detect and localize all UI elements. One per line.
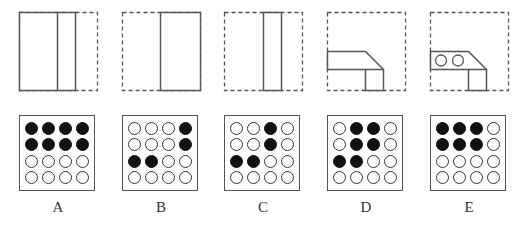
filled-dot-icon [59, 138, 72, 151]
empty-dot-icon [25, 155, 38, 168]
empty-dot-icon [162, 138, 175, 151]
empty-dot-icon [487, 122, 500, 135]
empty-dot-icon [367, 171, 380, 184]
filled-dot-icon [25, 138, 38, 151]
filled-dot-icon [367, 122, 380, 135]
empty-dot-icon [384, 171, 397, 184]
empty-dot-icon [128, 138, 141, 151]
dot-grid-d [327, 115, 403, 191]
empty-dot-icon [453, 155, 466, 168]
empty-dot-icon [247, 138, 260, 151]
empty-dot-icon [76, 171, 89, 184]
empty-dot-icon [281, 122, 294, 135]
filled-dot-icon [264, 138, 277, 151]
empty-dot-icon [162, 122, 175, 135]
option-a: A [0, 0, 100, 227]
empty-dot-icon [384, 155, 397, 168]
option-label-a: A [19, 199, 97, 216]
filled-dot-icon [42, 122, 55, 135]
filled-dot-icon [470, 122, 483, 135]
empty-dot-icon [264, 171, 277, 184]
filled-dot-icon [25, 122, 38, 135]
filled-dot-icon [179, 138, 192, 151]
empty-dot-icon [128, 122, 141, 135]
option-d: D [308, 0, 408, 227]
empty-dot-icon [470, 171, 483, 184]
top-shape-a [0, 0, 110, 100]
filled-dot-icon [179, 122, 192, 135]
filled-dot-icon [128, 155, 141, 168]
empty-dot-icon [145, 122, 158, 135]
empty-dot-icon [487, 155, 500, 168]
dot-grid-e [430, 115, 506, 191]
filled-dot-icon [333, 155, 346, 168]
filled-dot-icon [470, 138, 483, 151]
empty-dot-icon [436, 171, 449, 184]
top-shape-c [205, 0, 315, 100]
empty-dot-icon [350, 171, 363, 184]
filled-dot-icon [453, 122, 466, 135]
filled-dot-icon [230, 155, 243, 168]
filled-dot-icon [350, 138, 363, 151]
empty-dot-icon [487, 138, 500, 151]
top-shape-b [103, 0, 213, 100]
empty-dot-icon [128, 171, 141, 184]
empty-dot-icon [281, 155, 294, 168]
filled-dot-icon [436, 138, 449, 151]
option-b: B [103, 0, 203, 227]
empty-dot-icon [59, 171, 72, 184]
empty-dot-icon [42, 155, 55, 168]
empty-dot-icon [384, 122, 397, 135]
option-c: C [205, 0, 305, 227]
empty-dot-icon [25, 171, 38, 184]
empty-dot-icon [179, 155, 192, 168]
empty-dot-icon [470, 155, 483, 168]
empty-dot-icon [247, 171, 260, 184]
option-label-c: C [224, 199, 302, 216]
top-shape-d [308, 0, 418, 100]
top-shape-e [411, 0, 521, 100]
empty-dot-icon [230, 171, 243, 184]
filled-dot-icon [76, 122, 89, 135]
option-label-d: D [327, 199, 405, 216]
empty-dot-icon [230, 138, 243, 151]
empty-dot-icon [59, 155, 72, 168]
filled-dot-icon [42, 138, 55, 151]
empty-dot-icon [333, 122, 346, 135]
empty-dot-icon [453, 171, 466, 184]
filled-dot-icon [453, 138, 466, 151]
empty-dot-icon [42, 171, 55, 184]
dot-grid-c [224, 115, 300, 191]
empty-dot-icon [487, 171, 500, 184]
empty-dot-icon [145, 171, 158, 184]
empty-dot-icon [436, 155, 449, 168]
empty-dot-icon [247, 122, 260, 135]
empty-dot-icon [367, 155, 380, 168]
empty-dot-icon [384, 138, 397, 151]
filled-dot-icon [350, 122, 363, 135]
empty-dot-icon [76, 155, 89, 168]
empty-dot-icon [281, 138, 294, 151]
filled-dot-icon [264, 122, 277, 135]
dot-grid-b [122, 115, 198, 191]
filled-dot-icon [76, 138, 89, 151]
filled-dot-icon [145, 155, 158, 168]
option-e: E [411, 0, 511, 227]
empty-dot-icon [179, 171, 192, 184]
option-label-b: B [122, 199, 200, 216]
empty-dot-icon [333, 171, 346, 184]
option-label-e: E [430, 199, 508, 216]
empty-dot-icon [281, 171, 294, 184]
empty-dot-icon [230, 122, 243, 135]
empty-dot-icon [264, 155, 277, 168]
filled-dot-icon [350, 155, 363, 168]
filled-dot-icon [367, 138, 380, 151]
empty-dot-icon [162, 171, 175, 184]
empty-dot-icon [162, 155, 175, 168]
filled-dot-icon [59, 122, 72, 135]
empty-dot-icon [145, 138, 158, 151]
dot-grid-a [19, 115, 95, 191]
filled-dot-icon [436, 122, 449, 135]
empty-dot-icon [333, 138, 346, 151]
filled-dot-icon [247, 155, 260, 168]
